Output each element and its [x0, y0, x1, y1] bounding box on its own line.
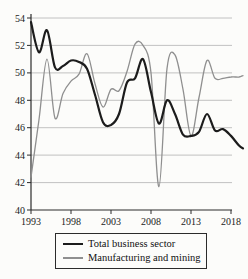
- legend-label-manufacturing-and-mining: Manufacturing and mining: [88, 253, 201, 264]
- y-tick-label-48: 48: [15, 95, 25, 106]
- x-tick-label-2003: 2003: [101, 216, 121, 227]
- x-tick-label-2008: 2008: [141, 216, 161, 227]
- x-tick-label-2013: 2013: [181, 216, 201, 227]
- legend-label-total-business-sector: Total business sector: [88, 239, 175, 250]
- y-tick-label-40: 40: [15, 205, 25, 216]
- x-tick-label-1993: 1993: [21, 216, 41, 227]
- x-tick-label-2018: 2018: [221, 216, 241, 227]
- series-line-manufacturing-and-mining: [31, 41, 243, 186]
- y-tick-label-46: 46: [15, 122, 25, 133]
- legend-line-manufacturing-and-mining: [63, 257, 83, 259]
- plot-area: 4042444648505254199319982003200820132018: [0, 0, 248, 228]
- y-tick-label-44: 44: [15, 150, 25, 161]
- line-chart-figure: 4042444648505254199319982003200820132018…: [0, 0, 248, 279]
- legend-box: Total business sector Manufacturing and …: [55, 233, 207, 269]
- y-tick-label-42: 42: [15, 177, 25, 188]
- x-tick-label-1998: 1998: [61, 216, 81, 227]
- y-tick-label-50: 50: [15, 67, 25, 78]
- legend-item-total-business-sector: Total business sector: [56, 239, 206, 250]
- y-tick-label-54: 54: [15, 13, 25, 24]
- y-tick-label-52: 52: [15, 40, 25, 51]
- legend-item-manufacturing-and-mining: Manufacturing and mining: [56, 253, 206, 264]
- legend-line-total-business-sector: [63, 243, 83, 245]
